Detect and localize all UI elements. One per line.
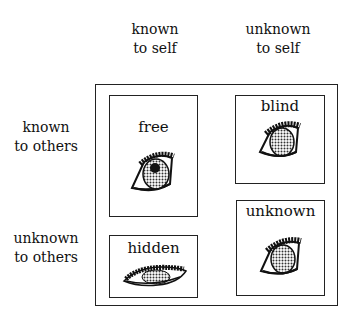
pane-hidden: hidden bbox=[109, 235, 198, 298]
pane-blind: blind bbox=[235, 95, 325, 184]
pane-title-unknown: unknown bbox=[237, 202, 324, 220]
row-header-unknown-to-others: unknown to others bbox=[0, 229, 92, 267]
open-eye-icon bbox=[256, 120, 306, 162]
pane-unknown: unknown bbox=[236, 200, 325, 296]
open-eye-icon bbox=[128, 148, 178, 194]
row-header-known-to-others: known to others bbox=[0, 118, 92, 156]
pane-title-hidden: hidden bbox=[110, 239, 197, 257]
column-header-unknown-to-self: unknown to self bbox=[233, 20, 323, 58]
open-eye-icon bbox=[257, 235, 307, 279]
pane-title-free: free bbox=[110, 118, 197, 136]
pane-free: free bbox=[109, 95, 198, 217]
column-header-known-to-self: known to self bbox=[110, 20, 200, 58]
half-closed-eye-icon bbox=[122, 261, 188, 289]
pane-title-blind: blind bbox=[236, 97, 324, 115]
